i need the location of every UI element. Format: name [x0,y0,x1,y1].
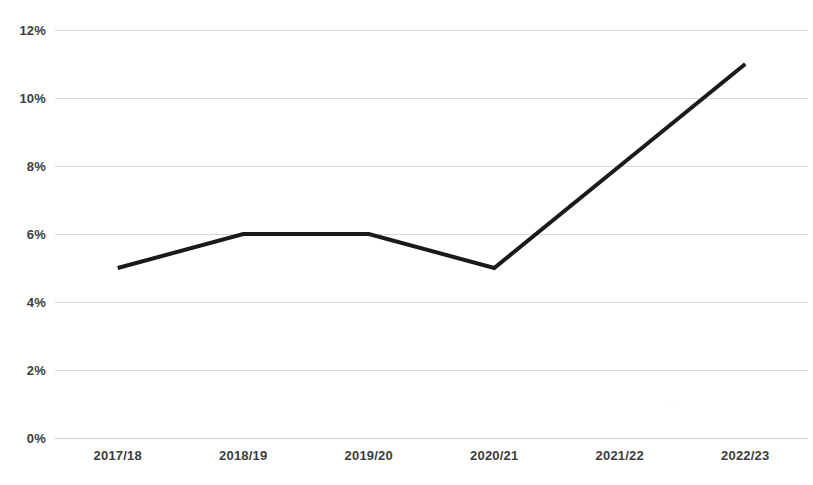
x-tick-label: 2018/19 [219,448,267,463]
series-line-0 [118,64,746,268]
y-tick-label: 2% [0,363,46,378]
plot-area [55,30,808,438]
y-tick-label: 0% [0,431,46,446]
y-tick-label: 8% [0,159,46,174]
x-axis: 2017/182018/192019/202020/212021/222022/… [55,448,808,476]
x-tick-label: 2019/20 [345,448,393,463]
series-line-chart [55,30,808,438]
y-tick-label: 10% [0,91,46,106]
x-tick-label: 2022/23 [721,448,769,463]
x-tick-label: 2021/22 [596,448,644,463]
y-tick-label: 6% [0,227,46,242]
x-tick-label: 2017/18 [94,448,142,463]
y-tick-label: 12% [0,23,46,38]
y-tick-label: 4% [0,295,46,310]
y-axis: 0%2%4%6%8%10%12% [0,30,46,438]
line-chart: 0%2%4%6%8%10%12% 2017/182018/192019/2020… [0,0,813,485]
x-tick-label: 2020/21 [470,448,518,463]
gridline [55,438,808,439]
